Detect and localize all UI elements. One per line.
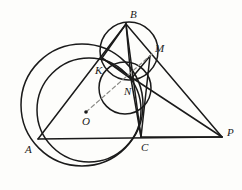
point-marker-o (84, 110, 88, 114)
point-label-m: M (155, 43, 164, 54)
segment-group (38, 24, 222, 139)
point-marker-group (84, 110, 88, 114)
point-label-n: N (124, 86, 131, 97)
point-label-b: B (130, 9, 137, 20)
circle-group (21, 22, 158, 166)
geometry-canvas (0, 0, 242, 190)
point-label-a: A (25, 144, 32, 155)
point-label-o: O (82, 116, 90, 127)
point-label-p: P (227, 127, 234, 138)
geometry-figure: A B C K M N O P (0, 0, 242, 190)
point-label-k: K (95, 65, 102, 76)
segment-kp (102, 58, 222, 137)
point-label-c: C (141, 142, 148, 153)
